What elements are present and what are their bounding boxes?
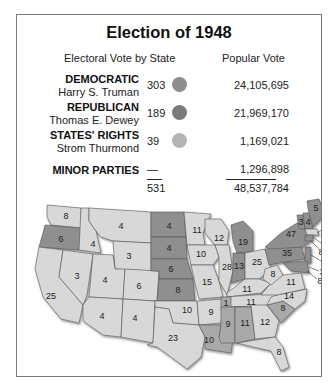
state-connecticut xyxy=(305,235,313,241)
svg-text:11: 11 xyxy=(242,284,251,294)
election-panel: Election of 1948 Electoral Vote by State… xyxy=(16,14,322,377)
svg-text:10: 10 xyxy=(204,335,214,345)
electoral-total: 531 xyxy=(147,182,165,194)
svg-text:47: 47 xyxy=(286,229,296,239)
svg-text:4: 4 xyxy=(166,243,171,253)
legend-swatch-republican xyxy=(172,105,187,120)
state-new-mexico xyxy=(121,299,155,343)
state-maryland-delaware xyxy=(283,261,309,273)
popular-votes: 1,169,021 xyxy=(240,135,289,147)
svg-text:4: 4 xyxy=(166,221,171,231)
svg-text:25: 25 xyxy=(46,291,56,301)
svg-text:12: 12 xyxy=(214,233,224,243)
svg-text:4: 4 xyxy=(90,239,95,249)
svg-text:8: 8 xyxy=(63,211,68,221)
svg-text:15: 15 xyxy=(202,277,212,287)
svg-text:11: 11 xyxy=(240,318,249,328)
svg-text:8: 8 xyxy=(270,269,275,279)
svg-text:8: 8 xyxy=(175,285,180,295)
party-name: DEMOCRATIC xyxy=(65,73,139,86)
candidate-name: Strom Thurmond xyxy=(57,142,139,155)
svg-text:6: 6 xyxy=(58,234,63,244)
svg-text:28: 28 xyxy=(222,262,232,272)
electoral-map: 8 6 25 4 3 4 3 4 6 4 4 4 4 6 8 10 23 11 … xyxy=(21,197,321,373)
state-massachusetts xyxy=(305,229,319,235)
popular-votes: 24,105,695 xyxy=(234,79,289,91)
party-name: REPUBLICAN xyxy=(67,101,139,114)
svg-text:10: 10 xyxy=(196,249,206,259)
party-row-democratic: DEMOCRATIC Harry S. Truman 303 24,105,69… xyxy=(17,73,323,103)
svg-text:9: 9 xyxy=(208,307,213,317)
svg-text:12: 12 xyxy=(260,317,270,327)
legend-swatch-states-rights xyxy=(172,133,187,148)
electoral-votes: 303 xyxy=(147,79,165,91)
party-row-states-rights: STATES' RIGHTS Strom Thurmond 39 1,169,0… xyxy=(17,129,323,159)
svg-text:6: 6 xyxy=(136,281,141,291)
svg-text:23: 23 xyxy=(168,333,178,343)
popular-total: 48,537,784 xyxy=(234,182,289,194)
svg-text:4: 4 xyxy=(132,313,137,323)
svg-text:4: 4 xyxy=(102,275,107,285)
electoral-votes: — xyxy=(147,163,158,175)
svg-text:4: 4 xyxy=(99,311,104,321)
svg-text:11: 11 xyxy=(286,277,295,287)
candidate-name: Thomas E. Dewey xyxy=(49,114,139,127)
svg-text:4: 4 xyxy=(305,217,310,227)
page-title: Election of 1948 xyxy=(17,23,321,42)
svg-text:1: 1 xyxy=(223,298,228,308)
svg-text:35: 35 xyxy=(282,248,292,258)
party-row-republican: REPUBLICAN Thomas E. Dewey 189 21,969,17… xyxy=(17,101,323,131)
popular-vote-header: Popular Vote xyxy=(222,52,285,64)
svg-text:6: 6 xyxy=(168,264,173,274)
svg-text:8: 8 xyxy=(280,303,285,313)
popular-votes: 1,296,898 xyxy=(240,163,289,175)
electoral-votes: 39 xyxy=(147,135,159,147)
svg-text:25: 25 xyxy=(252,257,262,267)
popular-votes: 21,969,170 xyxy=(234,107,289,119)
candidate-name: Harry S. Truman xyxy=(58,86,139,99)
state-wyoming xyxy=(113,241,151,271)
state-new-jersey xyxy=(305,247,311,263)
svg-text:3: 3 xyxy=(298,217,303,227)
svg-text:4: 4 xyxy=(118,221,123,231)
electoral-vote-header: Electoral Vote by State xyxy=(64,52,175,64)
electoral-votes: 189 xyxy=(147,107,165,119)
svg-text:9: 9 xyxy=(225,319,230,329)
svg-text:11: 11 xyxy=(246,297,255,307)
svg-text:8: 8 xyxy=(276,347,281,357)
svg-text:14: 14 xyxy=(284,291,294,301)
svg-text:3: 3 xyxy=(126,251,131,261)
svg-text:13: 13 xyxy=(234,261,244,271)
svg-text:10: 10 xyxy=(182,305,192,315)
party-name: STATES' RIGHTS xyxy=(50,129,139,142)
svg-text:11: 11 xyxy=(192,225,201,235)
svg-text:5: 5 xyxy=(313,203,318,213)
svg-text:19: 19 xyxy=(238,237,248,247)
svg-text:8: 8 xyxy=(317,276,321,286)
svg-text:3: 3 xyxy=(74,271,79,281)
svg-text:8: 8 xyxy=(318,247,321,257)
legend-swatch-democratic xyxy=(172,77,187,92)
